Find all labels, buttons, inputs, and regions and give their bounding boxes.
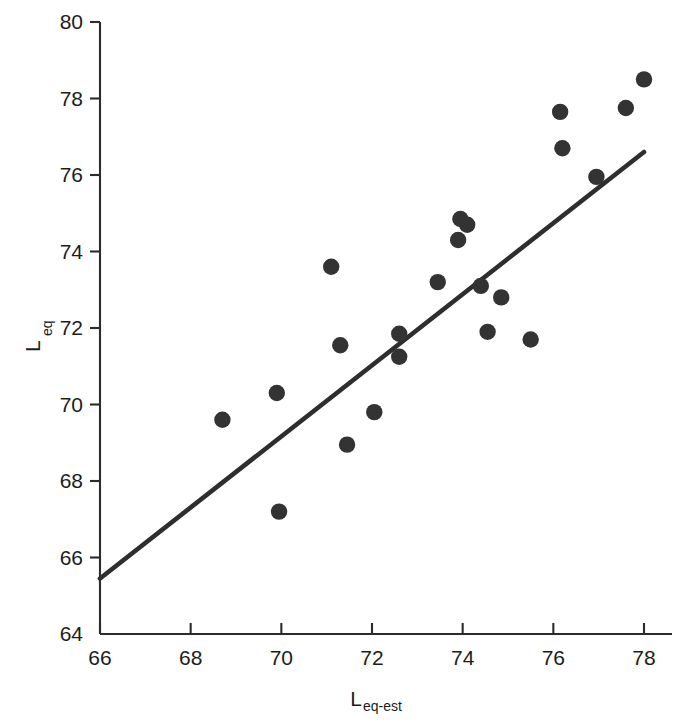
data-points xyxy=(214,71,652,520)
y-tick-label: 76 xyxy=(60,163,83,186)
regression-line xyxy=(100,152,644,578)
y-axis-label-subscript: eq xyxy=(39,320,55,336)
x-tick-label: 74 xyxy=(451,646,475,669)
x-tick-label: 76 xyxy=(542,646,565,669)
data-point xyxy=(522,331,538,347)
y-axis-label: L eq xyxy=(21,320,55,352)
x-tick-label: 66 xyxy=(88,646,111,669)
y-tick-label: 72 xyxy=(60,316,83,339)
x-axis-ticks: 66687072747678 xyxy=(88,623,655,669)
x-axis-label: L eq-est xyxy=(350,687,402,714)
data-point xyxy=(271,503,287,519)
axes xyxy=(100,22,672,634)
data-point xyxy=(588,169,604,185)
data-point xyxy=(459,217,475,233)
fit-line xyxy=(100,152,644,578)
x-tick-label: 72 xyxy=(360,646,383,669)
y-axis-label-main: L xyxy=(21,340,44,352)
data-point xyxy=(554,140,570,156)
data-point xyxy=(214,412,230,428)
y-tick-label: 70 xyxy=(60,393,83,416)
data-point xyxy=(618,100,634,116)
y-tick-label: 80 xyxy=(60,10,83,33)
data-point xyxy=(332,337,348,353)
y-tick-label: 68 xyxy=(60,469,83,492)
plot-canvas: 646668707274767880 66687072747678 L eq L… xyxy=(0,0,674,726)
x-tick-label: 78 xyxy=(632,646,655,669)
scatter-plot-figure: 646668707274767880 66687072747678 L eq L… xyxy=(0,0,674,726)
data-point xyxy=(391,326,407,342)
data-point xyxy=(450,232,466,248)
data-point xyxy=(430,274,446,290)
data-point xyxy=(269,385,285,401)
data-point xyxy=(366,404,382,420)
y-tick-label: 64 xyxy=(60,622,84,645)
data-point xyxy=(479,324,495,340)
x-axis-label-main: L xyxy=(350,687,362,710)
data-point xyxy=(552,104,568,120)
x-tick-label: 68 xyxy=(179,646,202,669)
x-axis-label-subscript: eq-est xyxy=(363,698,402,714)
data-point xyxy=(391,348,407,364)
y-tick-label: 78 xyxy=(60,87,83,110)
y-tick-label: 74 xyxy=(60,240,84,263)
data-point xyxy=(323,259,339,275)
data-point xyxy=(339,436,355,452)
y-axis-ticks: 646668707274767880 xyxy=(60,10,100,645)
data-point xyxy=(473,278,489,294)
data-point xyxy=(493,289,509,305)
x-tick-label: 70 xyxy=(270,646,293,669)
data-point xyxy=(636,71,652,87)
y-tick-label: 66 xyxy=(60,546,83,569)
